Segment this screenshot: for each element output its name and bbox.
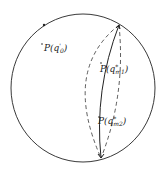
label-q0: P(q'0) [43,42,68,54]
edge-point [43,24,45,26]
label-m1: P(q*m1) [99,63,129,75]
sphere-diagram: P(q'0) P(q*m1) P(q*m2) [0,0,162,170]
solid-arc [99,25,119,158]
label-m2: P(q*m2) [97,115,127,127]
dashed-arc-right [101,25,121,158]
point-q0-dot [41,43,43,45]
sphere-outline [11,14,155,162]
